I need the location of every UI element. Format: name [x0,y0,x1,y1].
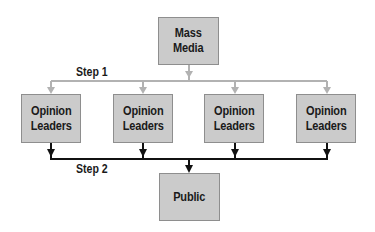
mass-media-box: Mass Media [158,17,219,65]
opinion-leaders-line-2: Leaders [31,119,72,134]
opinion-leaders-box-2: Opinion Leaders [113,94,173,143]
opinion-leaders-line-2: Leaders [306,119,347,134]
arrow-down-icon [323,149,331,157]
opinion-leaders-line-1: Opinion [306,104,347,119]
arrow-down-icon [139,149,147,157]
arrow-down-icon [323,87,331,94]
opinion-leaders-box-3: Opinion Leaders [204,94,264,143]
public-box: Public [159,173,220,221]
mass-media-line-2: Media [173,41,203,56]
step-2-label: Step 2 [76,162,108,176]
arrow-down-icon [231,149,239,157]
arrow-down-icon [139,87,147,94]
opinion-leaders-line-1: Opinion [214,104,255,119]
step-1-label: Step 1 [76,65,108,79]
arrow-down-icon [47,87,55,94]
arrow-down-icon [185,165,193,173]
arrow-down-icon [185,71,193,78]
arrow-down-icon [231,87,239,94]
opinion-leaders-line-2: Leaders [123,119,164,134]
opinion-leaders-line-2: Leaders [214,119,255,134]
opinion-leaders-box-1: Opinion Leaders [21,94,81,143]
public-label: Public [174,190,206,205]
arrow-down-icon [47,149,55,157]
opinion-leaders-line-1: Opinion [31,104,72,119]
opinion-leaders-box-4: Opinion Leaders [296,94,356,143]
opinion-leaders-line-1: Opinion [123,104,164,119]
mass-media-line-1: Mass [173,26,203,41]
